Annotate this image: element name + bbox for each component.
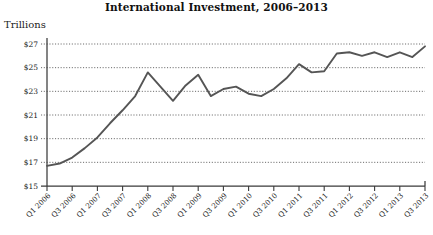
x-axis-tick-label: Q3 2006 bbox=[49, 191, 78, 220]
x-axis-tick-label: Q1 2006 bbox=[24, 191, 53, 220]
investment-line-series bbox=[47, 46, 425, 166]
x-axis-tick-label: Q3 2007 bbox=[100, 191, 129, 220]
x-axis-tick-label: Q1 2011 bbox=[276, 191, 304, 219]
chart-container: International Investment, 2006–2013 Tril… bbox=[0, 0, 433, 235]
x-axis-tick-label: Q1 2007 bbox=[74, 191, 103, 220]
x-axis-tick-label: Q1 2009 bbox=[175, 191, 204, 220]
x-axis-tick-label: Q3 2013 bbox=[402, 191, 431, 220]
y-axis-tick-label: $25 bbox=[24, 63, 39, 72]
x-axis-tick-label: Q1 2010 bbox=[226, 191, 255, 220]
x-axis-tick-label: Q3 2012 bbox=[352, 191, 380, 219]
x-axis-tick-label: Q1 2013 bbox=[377, 191, 406, 220]
gridlines-group bbox=[41, 44, 425, 162]
y-axis-tick-label: $15 bbox=[24, 182, 39, 191]
y-axis-tick-labels: $15$17$19$21$23$25$27 bbox=[24, 40, 39, 191]
y-axis-tick-label: $19 bbox=[24, 134, 39, 143]
x-axis-tick-label: Q3 2011 bbox=[301, 191, 329, 219]
y-axis-tick-label: $23 bbox=[24, 87, 39, 96]
chart-plot-area: $15$17$19$21$23$25$27 Q1 2006Q3 2006Q1 2… bbox=[0, 0, 433, 235]
x-axis-tick-label: Q1 2012 bbox=[326, 191, 354, 219]
x-axis-tick-label: Q3 2010 bbox=[251, 191, 280, 220]
x-axis bbox=[41, 38, 425, 191]
x-axis-tick-labels: Q1 2006Q3 2006Q1 2007Q3 2007Q1 2008Q3 20… bbox=[24, 191, 431, 220]
y-axis-tick-label: $27 bbox=[24, 40, 39, 49]
x-axis-tick-label: Q3 2009 bbox=[200, 191, 229, 220]
y-axis-tick-label: $17 bbox=[24, 158, 39, 167]
y-axis-tick-label: $21 bbox=[24, 111, 38, 120]
x-axis-tick-label: Q1 2008 bbox=[125, 191, 154, 220]
x-axis-tick-label: Q3 2008 bbox=[150, 191, 179, 220]
